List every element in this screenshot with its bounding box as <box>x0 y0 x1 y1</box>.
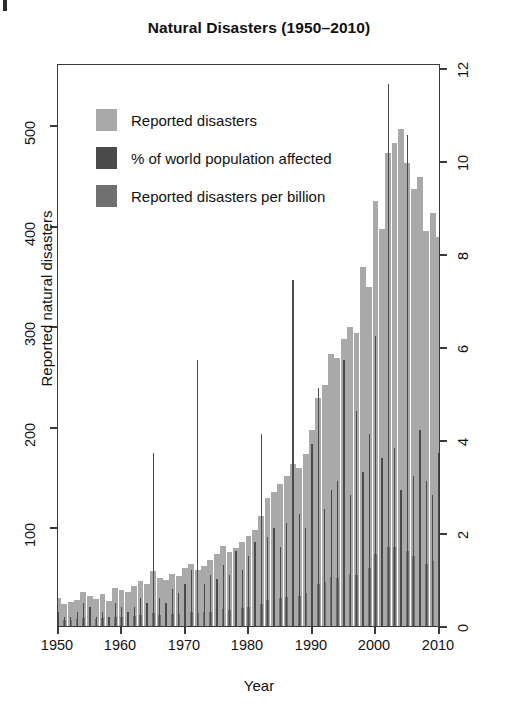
legend-label: Reported disasters per billion <box>131 188 325 205</box>
y-axis-right-tick <box>440 68 447 70</box>
x-axis-tick-label: 2010 <box>408 637 468 653</box>
legend-swatch-icon <box>96 147 117 169</box>
x-axis-tick-label: 2000 <box>344 637 404 653</box>
y-axis-left-tick-label: 100 <box>22 513 38 557</box>
y-axis-right-tick-label: 6 <box>455 332 471 366</box>
x-axis-tick <box>311 627 313 634</box>
x-axis-tick-label: 1970 <box>154 637 214 653</box>
x-axis-tick <box>247 627 249 634</box>
y-axis-left-title: Reported natural disasters <box>38 169 55 429</box>
y-axis-right-tick-label: 4 <box>455 425 471 459</box>
y-axis-right-tick <box>440 626 447 628</box>
x-axis-tick-label: 1960 <box>90 637 150 653</box>
page-corner-mark <box>3 0 7 11</box>
legend-item-disasters-per-billion: Reported disasters per billion <box>96 177 406 215</box>
legend-label: % of world population affected <box>131 150 332 167</box>
y-axis-right-tick-label: 10 <box>455 146 471 180</box>
x-axis-tick <box>120 627 122 634</box>
legend-item-pct-population-affected: % of world population affected <box>96 139 406 177</box>
y-axis-left-tick-label: 200 <box>22 413 38 457</box>
chart-legend: Reported disasters % of world population… <box>96 101 406 215</box>
x-axis-title: Year <box>0 677 518 694</box>
x-axis-tick <box>57 627 59 634</box>
y-axis-right-tick <box>440 533 447 535</box>
y-axis-left-tick-label: 300 <box>22 312 38 356</box>
x-axis-tick <box>438 627 440 634</box>
x-axis-tick-label: 1990 <box>281 637 341 653</box>
chart-title: Natural Disasters (1950–2010) <box>0 19 518 37</box>
y-axis-right-tick <box>440 161 447 163</box>
legend-swatch-icon <box>96 109 117 131</box>
y-axis-right-tick <box>440 440 447 442</box>
legend-label: Reported disasters <box>131 112 257 129</box>
y-axis-left-tick <box>50 125 57 127</box>
y-axis-right-tick <box>440 347 447 349</box>
chart-figure: Natural Disasters (1950–2010) 100 200 30… <box>0 0 518 719</box>
y-axis-left-tick <box>50 527 57 529</box>
y-axis-right-tick-label: 2 <box>455 518 471 552</box>
y-axis-left-tick-label: 500 <box>22 111 38 155</box>
x-axis-tick <box>184 627 186 634</box>
legend-swatch-icon <box>96 185 117 207</box>
y-axis-right-tick <box>440 254 447 256</box>
x-axis-tick <box>374 627 376 634</box>
x-axis-tick-label: 1980 <box>217 637 277 653</box>
x-axis-tick-label: 1950 <box>27 637 87 653</box>
y-axis-right-tick-label: 12 <box>455 53 471 87</box>
y-axis-right-tick-label: 8 <box>455 239 471 273</box>
legend-item-reported-disasters: Reported disasters <box>96 101 406 139</box>
y-axis-left-tick-label: 400 <box>22 212 38 256</box>
